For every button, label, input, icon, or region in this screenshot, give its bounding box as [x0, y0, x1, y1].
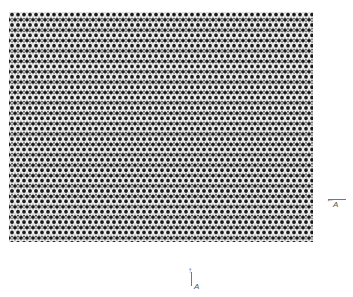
arrow-label-right: A — [333, 200, 338, 209]
arrow-label-bottom: A — [194, 282, 199, 291]
arrow-up-head-icon: ↑ — [188, 267, 192, 275]
lattice-micrograph — [9, 12, 313, 242]
figure: ← A ↑ A — [0, 0, 353, 297]
